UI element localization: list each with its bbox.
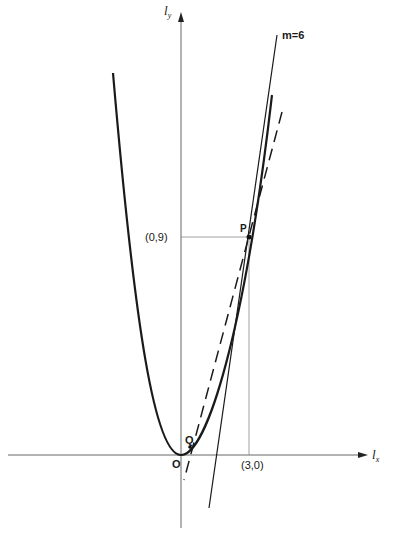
parabola-curve [113, 0, 181, 455]
x-axis-arrow-icon [358, 452, 368, 458]
x-tick-label: (3,0) [241, 460, 264, 471]
secant-line-dashed [184, 112, 282, 480]
y-axis-arrow-icon [178, 12, 184, 22]
parabola-path [113, 73, 272, 455]
x-axis-label: lx [372, 448, 379, 464]
point-p-marker [247, 235, 252, 240]
y-axis-label: ly [164, 4, 171, 20]
point-p-label: P [240, 224, 247, 234]
origin-label: O [172, 459, 181, 470]
tangent-slope-label: m=6 [282, 30, 304, 41]
diagram-canvas [0, 0, 393, 535]
y-tick-label: (0,9) [145, 232, 168, 243]
tangent-line [209, 35, 277, 508]
point-q-label: Q [185, 435, 194, 446]
